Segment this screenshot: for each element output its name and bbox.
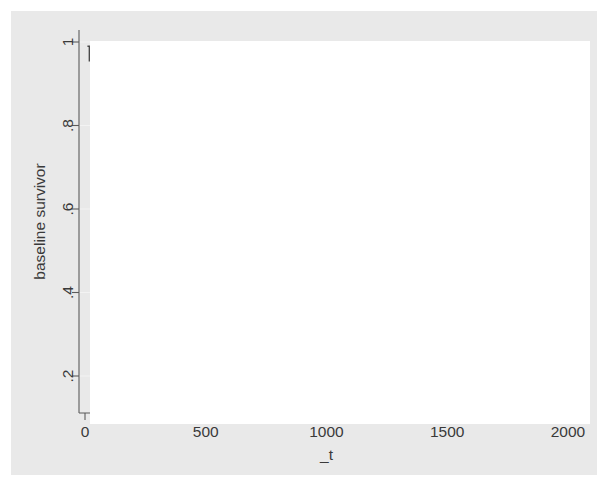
- x-tick-label: 1000: [309, 423, 344, 440]
- graph-region: .2.4.6.810500100015002000 _tbaseline sur…: [11, 11, 597, 475]
- y-tick-label: 1: [59, 38, 76, 47]
- figure-canvas: .2.4.6.810500100015002000 _tbaseline sur…: [0, 0, 608, 493]
- x-tick-label: 500: [193, 423, 219, 440]
- x-axis-title: _t: [319, 446, 334, 463]
- y-tick-label: .8: [59, 119, 76, 132]
- x-tick-label: 2000: [551, 423, 586, 440]
- y-tick-label: .2: [59, 370, 76, 383]
- y-tick-label: .6: [59, 203, 76, 216]
- x-tick-label: 1500: [430, 423, 465, 440]
- y-axis-title: baseline survivor: [31, 163, 48, 279]
- y-tick-label: .4: [59, 286, 76, 299]
- x-tick-label: 0: [81, 423, 90, 440]
- plot-region: [90, 41, 590, 424]
